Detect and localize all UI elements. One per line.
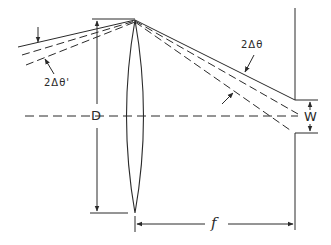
incident-ray-bundle — [18, 20, 135, 65]
incoming-angle-arrow-bottom — [45, 59, 54, 74]
outgoing-angle-arrow-bottom — [222, 93, 233, 104]
refracted-ray-bundle — [135, 20, 298, 130]
focal-length-label: f — [211, 216, 217, 231]
aperture-label: D — [91, 109, 101, 122]
incoming-angle-label: 2Δθ' — [44, 78, 70, 88]
lens-diagram — [0, 0, 331, 245]
slit-width-label: W — [304, 110, 317, 123]
outgoing-angle-arrow-top — [245, 55, 254, 72]
outgoing-angle-label: 2Δθ — [241, 40, 263, 50]
